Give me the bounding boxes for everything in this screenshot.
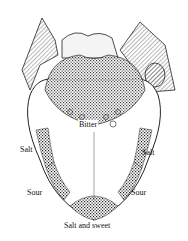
label-bitter: Bitter	[78, 120, 98, 129]
label-salt-right: Salt	[142, 148, 154, 157]
label-salt-and-sweet: Salt and sweet	[64, 221, 110, 230]
label-sour-right: Sour	[131, 188, 146, 197]
epiglottis	[62, 33, 118, 58]
label-salt-left: Salt	[20, 145, 32, 154]
label-sour-left: Sour	[27, 188, 42, 197]
